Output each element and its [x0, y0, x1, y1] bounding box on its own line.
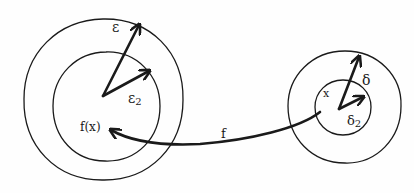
- continuity-diagram: ε ε2 f(x) δ δ2 x f: [0, 0, 414, 193]
- label-delta2-sub: 2: [355, 118, 361, 129]
- label-delta: δ: [362, 73, 370, 87]
- label-fx: f(x): [80, 121, 101, 133]
- label-epsilon: ε: [112, 20, 119, 34]
- label-x: x: [323, 88, 329, 99]
- label-f: f: [221, 127, 226, 140]
- label-epsilon2: ε2: [128, 91, 142, 107]
- label-delta2-base: δ: [347, 113, 355, 128]
- label-delta2: δ2: [347, 114, 361, 129]
- label-epsilon2-sub: 2: [135, 96, 141, 107]
- diagram-canvas: [0, 0, 414, 193]
- epsilon-inner-circle: [53, 52, 160, 161]
